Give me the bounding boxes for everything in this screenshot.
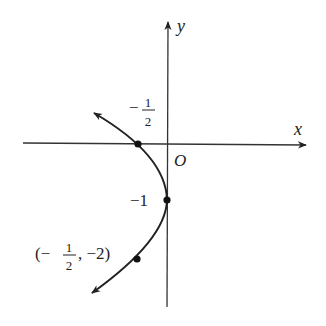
minus-sign: −: [129, 98, 139, 117]
fraction-numerator: 1: [66, 240, 73, 255]
y-axis: [167, 22, 168, 307]
x-axis: [23, 143, 306, 145]
x-axis-label: x: [293, 119, 302, 139]
point-neg-half-neg-two: [133, 255, 140, 262]
origin-label: O: [174, 151, 186, 170]
graph-canvas: y x O − 1 2 −1 (− 1 2 , −2): [0, 0, 326, 326]
fraction-numerator: 1: [145, 95, 152, 110]
label-open: (−: [35, 244, 50, 263]
point-x-intercept: [134, 140, 141, 147]
label-rest: , −2): [78, 244, 110, 263]
point-vertex: [163, 196, 170, 203]
x-intercept-label: − 1 2: [129, 95, 155, 129]
fraction-denominator: 2: [66, 258, 73, 273]
point-label: (− 1 2 , −2): [35, 240, 110, 273]
vertex-label: −1: [130, 191, 148, 210]
y-axis-label: y: [175, 16, 185, 36]
fraction-denominator: 2: [145, 114, 152, 129]
